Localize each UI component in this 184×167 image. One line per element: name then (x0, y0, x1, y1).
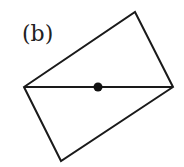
figure-label: (b) (22, 22, 53, 46)
center-dot (94, 83, 103, 92)
